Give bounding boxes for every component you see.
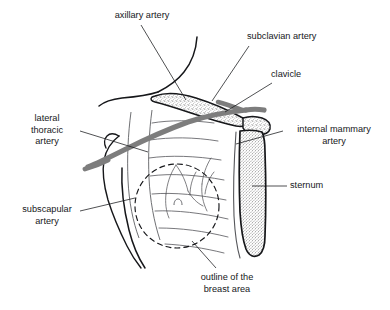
- label-internal-mammary-artery: internal mammary artery: [284, 124, 384, 147]
- ribs: [149, 121, 228, 253]
- label-subscapular-artery: subscapular artery: [14, 204, 80, 227]
- label-outline-of-breast-area: outline of the breast area: [179, 272, 275, 295]
- label-internal-mammary-line1: internal mammary: [297, 124, 371, 134]
- nipple: [174, 199, 182, 205]
- label-axillary-artery: axillary artery: [100, 10, 184, 22]
- label-subscapular-line2: artery: [35, 216, 59, 226]
- label-sternum: sternum: [290, 180, 323, 192]
- leader-breast-outline: [192, 241, 216, 268]
- breast-outline-dashed-circle: [135, 164, 219, 248]
- anatomy-illustration: [0, 0, 390, 310]
- label-clavicle: clavicle: [271, 69, 301, 81]
- label-lateral-thoracic-line2: thoracic: [31, 125, 63, 135]
- label-subscapular-line1: subscapular: [22, 204, 72, 214]
- label-subclavian-artery: subclavian artery: [247, 31, 316, 43]
- label-breast-outline-line2: breast area: [204, 284, 250, 294]
- label-lateral-thoracic-line3: artery: [35, 136, 59, 146]
- anatomy-diagram-canvas: axillary artery subclavian artery clavic…: [0, 0, 390, 310]
- breast-vessel-branches: [166, 158, 214, 218]
- leader-subclavian-artery: [212, 46, 249, 101]
- label-internal-mammary-line2: artery: [322, 136, 346, 146]
- label-lateral-thoracic-line1: lateral: [34, 113, 59, 123]
- label-breast-outline-line1: outline of the: [201, 272, 254, 282]
- label-lateral-thoracic-artery: lateral thoracic artery: [17, 113, 77, 148]
- sternum-bone: [239, 130, 266, 256]
